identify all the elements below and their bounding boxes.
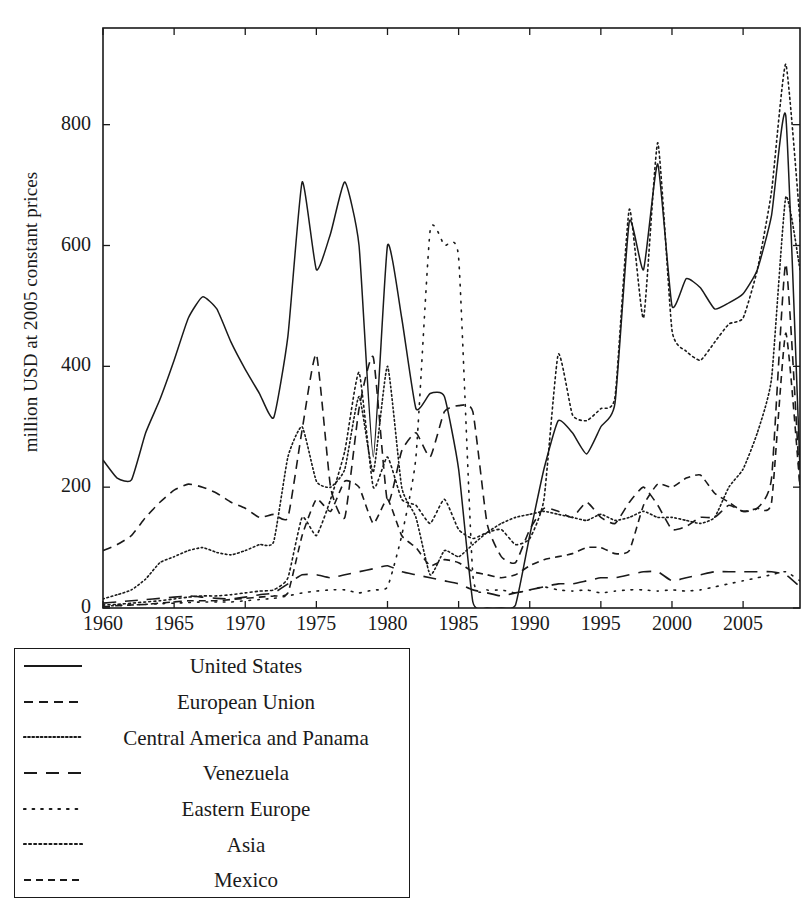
x-tick-label: 1980 (352, 612, 422, 635)
solid-line-key (23, 658, 89, 676)
dashed-line-key (23, 694, 89, 712)
legend-item-label: Eastern Europe (89, 797, 409, 822)
data-series-group (103, 64, 800, 609)
series-line (103, 225, 800, 606)
long-dashed-line-key (23, 765, 89, 783)
x-tick-label: 1960 (68, 612, 138, 635)
x-tick-label: 1965 (139, 612, 209, 635)
series-line (103, 196, 800, 599)
legend-item-label: Venezuela (89, 761, 409, 786)
legend-item[interactable]: Mexico (15, 863, 409, 899)
legend-item-label: European Union (89, 690, 409, 715)
x-tick-label: 1985 (424, 612, 494, 635)
legend-item[interactable]: United States (15, 649, 409, 685)
sparse-dotted-line-key (23, 801, 89, 819)
y-tick-label: 600 (31, 233, 91, 256)
legend-item[interactable]: Asia (15, 827, 409, 863)
legend-item-label: United States (89, 654, 409, 679)
series-line (103, 333, 800, 607)
y-tick-label: 400 (31, 353, 91, 376)
dense-dotted-line-key (23, 836, 89, 854)
legend-item-label: Central America and Panama (89, 726, 409, 751)
legend-item-label: Asia (89, 833, 409, 858)
medium-dashed-line-key (23, 872, 89, 890)
series-line (103, 113, 800, 609)
x-tick-label: 1975 (281, 612, 351, 635)
chart-figure: million USD at 2005 constant prices 0200… (0, 0, 810, 908)
legend-item[interactable]: Central America and Panama (15, 720, 409, 756)
fine-dotted-line-key (23, 729, 89, 747)
y-tick-label: 800 (31, 112, 91, 135)
series-line (103, 264, 800, 564)
x-tick-label: 1970 (210, 612, 280, 635)
legend-item-label: Mexico (89, 868, 409, 893)
x-tick-label: 2000 (637, 612, 707, 635)
series-line (103, 64, 800, 605)
x-tick-label: 2005 (708, 612, 778, 635)
x-tick-label: 1990 (495, 612, 565, 635)
legend-item[interactable]: Eastern Europe (15, 792, 409, 828)
legend-item[interactable]: European Union (15, 685, 409, 721)
series-line (103, 566, 800, 603)
y-tick-label: 200 (31, 474, 91, 497)
legend-item[interactable]: Venezuela (15, 756, 409, 792)
x-tick-label: 1995 (566, 612, 636, 635)
chart-legend: United StatesEuropean UnionCentral Ameri… (14, 648, 410, 898)
plot-area (0, 0, 810, 640)
